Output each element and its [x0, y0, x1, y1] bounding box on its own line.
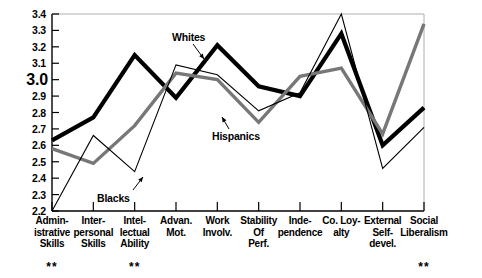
y-tick-label: 2.6: [6, 139, 46, 151]
y-tick-label: 2.9: [6, 90, 46, 102]
x-category-label-line: Ability: [104, 238, 166, 250]
chart-container: 2.22.32.42.52.62.72.82.93.03.13.23.33.4 …: [0, 0, 482, 278]
annotation-blacks: Blacks: [97, 192, 130, 204]
series-line-whites: [52, 34, 424, 146]
arrow-hispanics: [222, 117, 229, 129]
annotation-whites: Whites: [172, 31, 205, 43]
annotation-hispanics: Hispanics: [212, 130, 260, 142]
y-tick-label: 3.4: [6, 8, 46, 20]
arrow-blacks: [133, 177, 143, 190]
y-tick-label: 3.3: [6, 24, 46, 36]
y-tick-label: 3.2: [6, 41, 46, 53]
chart-series-group: [52, 14, 424, 211]
y-tick-label: 2.8: [6, 107, 46, 119]
x-category-label-line: devel.: [352, 238, 414, 250]
y-tick-label: 2.4: [6, 172, 46, 184]
x-category-label-line: Social: [393, 215, 455, 227]
y-tick-label: 2.7: [6, 123, 46, 135]
significance-mark: **: [115, 262, 155, 272]
significance-mark: **: [404, 262, 444, 272]
y-tick-label: 2.3: [6, 189, 46, 201]
y-tick-label-emphasized: 3.0: [4, 71, 48, 89]
y-tick-label: 3.1: [6, 57, 46, 69]
arrow-whites: [193, 44, 204, 59]
x-category-label-line: Liberalism: [393, 227, 455, 239]
x-category-label: SocialLiberalism: [393, 215, 455, 238]
x-category-label-line: Perf.: [228, 238, 290, 250]
significance-mark: **: [32, 262, 72, 272]
y-tick-label: 2.5: [6, 156, 46, 168]
series-line-blacks: [52, 14, 424, 211]
